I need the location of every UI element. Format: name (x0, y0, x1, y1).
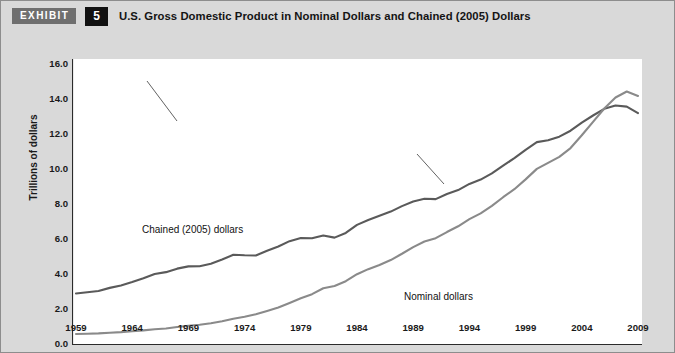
annotation-leader-lines (147, 81, 444, 184)
leader-line-nominal (417, 154, 444, 184)
y-axis-tick-labels: 16.014.012.010.08.06.04.02.00.0 (28, 32, 68, 343)
y-tick-label: 12.0 (34, 128, 68, 139)
x-tick-label: 1979 (290, 322, 311, 333)
y-tick-label: 8.0 (34, 198, 68, 209)
x-axis-tick-labels: 1959196419691974197919841989199419992004… (72, 322, 642, 342)
axis-group (72, 59, 642, 345)
y-tick-label: 0.0 (34, 338, 68, 349)
x-tick-label: 1984 (346, 322, 367, 333)
series-annotation-nominal: Nominal dollars (404, 291, 473, 302)
chart-panel: Trillions of dollars 16.014.012.010.08.0… (10, 32, 667, 343)
x-tick-label: 1974 (234, 322, 255, 333)
y-tick-label: 4.0 (34, 268, 68, 279)
series-group (76, 92, 638, 335)
plot-area (72, 59, 642, 345)
chart-svg (72, 59, 642, 345)
y-tick-label: 16.0 (34, 58, 68, 69)
series-line-chained (76, 106, 638, 294)
series-line-nominal (76, 92, 638, 335)
y-tick-label: 6.0 (34, 233, 68, 244)
x-tick-label: 1959 (65, 322, 86, 333)
exhibit-header: EXHIBIT 5 U.S. Gross Domestic Product in… (1, 4, 675, 28)
series-annotation-chained: Chained (2005) dollars (142, 224, 243, 235)
x-tick-label: 2009 (627, 322, 648, 333)
exhibit-figure: EXHIBIT 5 U.S. Gross Domestic Product in… (0, 0, 675, 353)
page-title: U.S. Gross Domestic Product in Nominal D… (119, 10, 531, 22)
y-tick-label: 2.0 (34, 303, 68, 314)
x-tick-label: 1999 (515, 322, 536, 333)
leader-line-chained (147, 81, 177, 121)
x-tick-label: 1989 (403, 322, 424, 333)
y-tick-label: 10.0 (34, 163, 68, 174)
y-tick-label: 14.0 (34, 93, 68, 104)
exhibit-number-badge: 5 (85, 7, 108, 26)
x-tick-label: 1994 (459, 322, 480, 333)
x-tick-label: 1964 (122, 322, 143, 333)
x-tick-label: 2004 (571, 322, 592, 333)
x-tick-label: 1969 (178, 322, 199, 333)
exhibit-badge: EXHIBIT (12, 8, 76, 24)
